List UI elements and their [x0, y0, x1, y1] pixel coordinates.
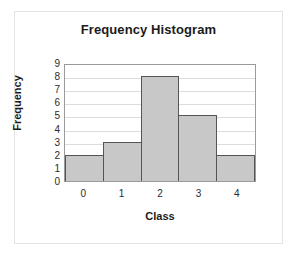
bar: [103, 142, 142, 181]
y-axis-title: Frequency: [11, 65, 23, 141]
y-tick-label: 1: [36, 164, 60, 174]
y-tick-label: 9: [36, 59, 60, 69]
y-tick-label: 4: [36, 125, 60, 135]
y-tick-label: 6: [36, 98, 60, 108]
y-tick-label: 8: [36, 72, 60, 82]
x-tick-label: 4: [218, 188, 256, 199]
histogram-figure: Frequency Histogram Frequency 9876543210…: [0, 0, 297, 256]
bar: [65, 155, 104, 181]
chart-title: Frequency Histogram: [0, 22, 297, 37]
y-tick-label: 7: [36, 85, 60, 95]
bar: [141, 76, 180, 181]
bar: [216, 155, 255, 181]
plot-area: [64, 64, 256, 182]
x-axis-title: Class: [64, 210, 256, 222]
x-axis-tick-labels: 01234: [64, 188, 256, 199]
y-tick-label: 5: [36, 111, 60, 121]
x-tick-label: 1: [102, 188, 140, 199]
x-tick-label: 3: [179, 188, 217, 199]
bar: [178, 115, 217, 181]
y-tick-label: 0: [36, 177, 60, 187]
x-tick-label: 2: [141, 188, 179, 199]
y-tick-label: 3: [36, 138, 60, 148]
y-axis-tick-labels: 9876543210: [36, 64, 60, 182]
x-tick-label: 0: [64, 188, 102, 199]
y-tick-label: 2: [36, 151, 60, 161]
bar-series: [65, 65, 255, 181]
